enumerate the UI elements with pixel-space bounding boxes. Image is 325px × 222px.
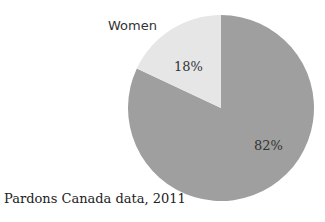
women-label: Women <box>108 18 157 33</box>
men-percent-label: 82% <box>254 138 283 153</box>
source-caption: Pardons Canada data, 2011 <box>4 191 186 206</box>
women-percent-label: 18% <box>174 59 203 74</box>
pie-chart <box>0 0 325 222</box>
